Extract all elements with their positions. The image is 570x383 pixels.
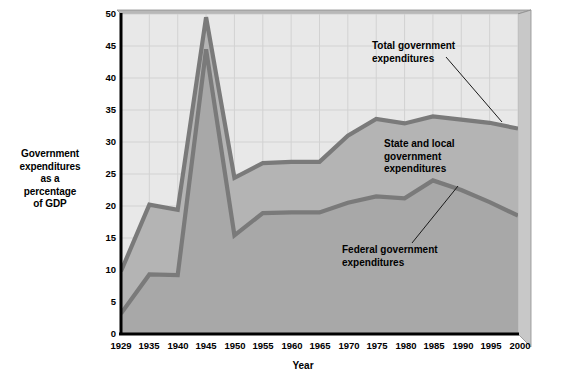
y-tick-40: 40: [94, 72, 116, 83]
y-tick-50: 50: [94, 8, 116, 19]
annotation-state-local-government: State and local government expenditures: [384, 138, 455, 176]
annotation-total-line-1: Total government: [372, 40, 455, 53]
y-tick-20: 20: [94, 200, 116, 211]
y-tick-0: 0: [94, 328, 116, 339]
y-tick-35: 35: [94, 104, 116, 115]
y-tick-25: 25: [94, 168, 116, 179]
annotation-federal-line-2: expenditures: [342, 257, 438, 270]
annotation-state-local-line-2: government: [384, 151, 455, 164]
annotation-federal-government: Federal government expenditures: [342, 244, 438, 269]
chart-plot-area: [0, 0, 570, 383]
chart-figure: Government expenditures as a percentage …: [0, 0, 570, 383]
plot-bevel-top: [117, 10, 531, 14]
annotation-state-local-line-1: State and local: [384, 138, 455, 151]
y-tick-10: 10: [94, 264, 116, 275]
annotation-total-line-2: expenditures: [372, 53, 455, 66]
annotation-total-government: Total government expenditures: [372, 40, 455, 65]
annotation-state-local-line-3: expenditures: [384, 163, 455, 176]
annotation-federal-line-1: Federal government: [342, 244, 438, 257]
y-tick-15: 15: [94, 232, 116, 243]
y-tick-45: 45: [94, 40, 116, 51]
y-tick-30: 30: [94, 136, 116, 147]
plot-bevel-right: [518, 10, 531, 347]
y-tick-5: 5: [94, 296, 116, 307]
x-tick-2000: 2000: [503, 340, 537, 351]
